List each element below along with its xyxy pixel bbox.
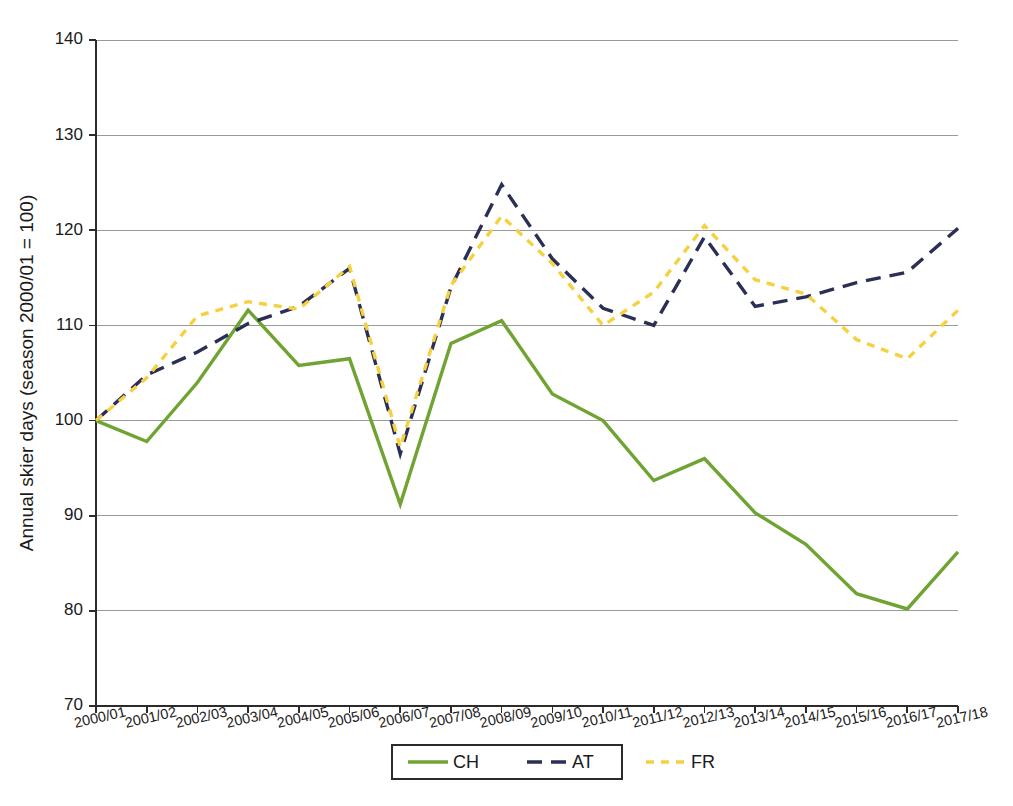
y-tick-label-100: 100 bbox=[55, 410, 83, 429]
x-tick-label-2001/02: 2001/02 bbox=[123, 703, 178, 730]
chart-legend: CHATFR bbox=[392, 745, 715, 779]
y-tick-label-110: 110 bbox=[56, 315, 83, 334]
y-tick-label-130: 130 bbox=[55, 125, 83, 144]
skier-days-line-chart: 708090100110120130140 2000/012001/022002… bbox=[0, 0, 1013, 806]
series-line-CH bbox=[96, 310, 958, 609]
x-tick-label-2009/10: 2009/10 bbox=[529, 703, 584, 730]
y-tick-label-90: 90 bbox=[64, 505, 83, 524]
y-axis-tick-labels: 708090100110120130140 bbox=[55, 29, 83, 714]
data-series-group bbox=[96, 185, 958, 609]
x-tick-label-2016/17: 2016/17 bbox=[884, 703, 939, 730]
x-tick-label-2012/13: 2012/13 bbox=[681, 703, 736, 730]
chart-container: 708090100110120130140 2000/012001/022002… bbox=[0, 0, 1013, 806]
series-line-AT bbox=[96, 185, 958, 454]
x-tick-label-2003/04: 2003/04 bbox=[225, 703, 280, 730]
x-tick-label-2015/16: 2015/16 bbox=[833, 703, 888, 730]
x-tick-label-2013/14: 2013/14 bbox=[732, 703, 787, 730]
legend-label-CH: CH bbox=[453, 752, 479, 772]
y-axis bbox=[89, 40, 96, 706]
y-tick-label-70: 70 bbox=[64, 695, 83, 714]
y-tick-label-120: 120 bbox=[55, 220, 83, 239]
x-tick-label-2005/06: 2005/06 bbox=[326, 703, 381, 730]
x-axis-tick-labels: 2000/012001/022002/032003/042004/052005/… bbox=[73, 703, 990, 730]
series-line-FR bbox=[96, 216, 958, 447]
y-tick-label-140: 140 bbox=[55, 29, 83, 48]
legend-label-FR: FR bbox=[691, 752, 715, 772]
x-tick-label-2004/05: 2004/05 bbox=[275, 703, 330, 730]
x-tick-label-2010/11: 2010/11 bbox=[580, 704, 634, 731]
y-axis-title: Annual skier days (season 2000/01 = 100) bbox=[16, 195, 37, 551]
y-axis-title-text: Annual skier days (season 2000/01 = 100) bbox=[16, 195, 37, 551]
x-tick-label-2002/03: 2002/03 bbox=[174, 703, 229, 730]
x-tick-label-2006/07: 2006/07 bbox=[377, 703, 432, 730]
x-tick-label-2008/09: 2008/09 bbox=[478, 703, 533, 730]
x-tick-label-2007/08: 2007/08 bbox=[427, 703, 482, 730]
x-tick-label-2014/15: 2014/15 bbox=[782, 703, 837, 730]
legend-label-AT: AT bbox=[572, 752, 594, 772]
x-tick-label-2017/18: 2017/18 bbox=[935, 703, 990, 730]
grid-lines bbox=[96, 40, 958, 611]
y-tick-label-80: 80 bbox=[64, 600, 83, 619]
x-tick-label-2011/12: 2011/12 bbox=[631, 704, 685, 731]
